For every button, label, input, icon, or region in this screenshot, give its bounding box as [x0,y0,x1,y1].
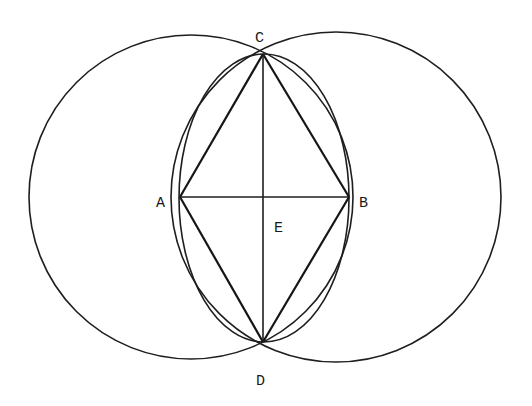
segment-da [180,197,263,342]
label-d: D [256,373,265,390]
label-e: E [274,220,283,237]
geometry-diagram: C A B E D [0,0,532,406]
segment-ac [180,54,263,197]
label-a: A [156,195,165,212]
label-c: C [255,30,264,47]
label-b: B [359,195,368,212]
